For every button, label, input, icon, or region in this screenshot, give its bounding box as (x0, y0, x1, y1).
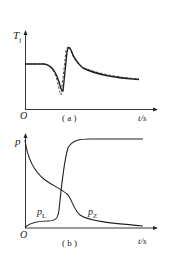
chart-a-x-label: t/s (138, 114, 147, 123)
chart-b-origin-label: O (20, 230, 27, 240)
chart-b-x-arrow (153, 226, 158, 230)
chart-b-caption: ( b ) (62, 239, 77, 248)
chart-a-origin-label: O (20, 111, 27, 121)
figure (0, 0, 173, 262)
chart-b-y-label: p (15, 136, 21, 147)
chart-a-y-label: Tj (13, 30, 21, 44)
chart-a-x-arrow (153, 108, 158, 112)
chart-a-caption: ( a ) (62, 114, 77, 123)
chart-a-y-arrow (24, 30, 28, 35)
chart-a-solid-curve (25, 48, 139, 92)
chart-b-pZ-label: pZ (88, 207, 97, 220)
chart-a (24, 30, 159, 112)
chart-a-dashed-curve (25, 46, 139, 95)
chart-b-pL-label: pL (37, 207, 46, 220)
chart-b-x-label: t/s (138, 237, 147, 246)
chart-b-y-arrow (24, 133, 28, 138)
